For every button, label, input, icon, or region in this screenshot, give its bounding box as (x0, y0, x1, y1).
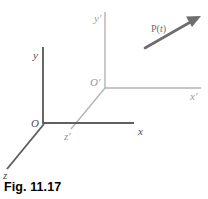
x-axis-label: x (137, 125, 143, 137)
unprimed-z-axis-line (7, 124, 44, 169)
primed-frame (71, 12, 201, 129)
vector-label: P(t) (151, 23, 166, 35)
vector-arrowhead (186, 16, 201, 27)
unprimed-frame (7, 47, 134, 169)
primed-origin-label: O' (90, 76, 101, 88)
coordinate-systems-diagram: O x y z O' x' y' z' P(t) (0, 0, 208, 199)
x-prime-axis-label: x' (189, 90, 198, 102)
figure-container: O x y z O' x' y' z' P(t) Fig. 11.17 (0, 0, 208, 199)
z-prime-axis-label: z' (63, 130, 71, 142)
vector-label-suffix: ) (163, 23, 166, 35)
y-prime-axis-label: y' (93, 12, 102, 24)
y-axis-label: y (32, 49, 38, 61)
figure-caption: Fig. 11.17 (4, 180, 61, 194)
unprimed-origin-label: O (31, 117, 39, 129)
